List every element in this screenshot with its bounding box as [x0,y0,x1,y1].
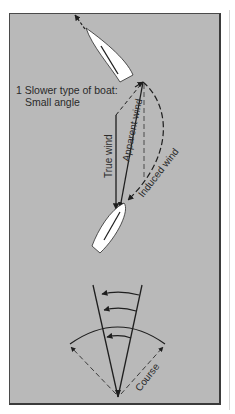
true-wind-label: True wind [103,134,114,178]
sailing-wind-diagram: True wind Apparent wind Induced wind Cou… [0,0,235,414]
induced-wind-label: Induced wind [136,146,181,199]
bottom-boat-icon [92,203,126,253]
course-label: Course [133,361,162,394]
apparent-wind-label: Apparent wind [120,98,144,163]
figure-caption: 1 Slower type of boat: Small angle [16,84,118,108]
caption-line-1: 1 Slower type of boat: [16,84,118,96]
top-boat-icon [75,15,133,82]
caption-line-2: Small angle [16,96,118,108]
